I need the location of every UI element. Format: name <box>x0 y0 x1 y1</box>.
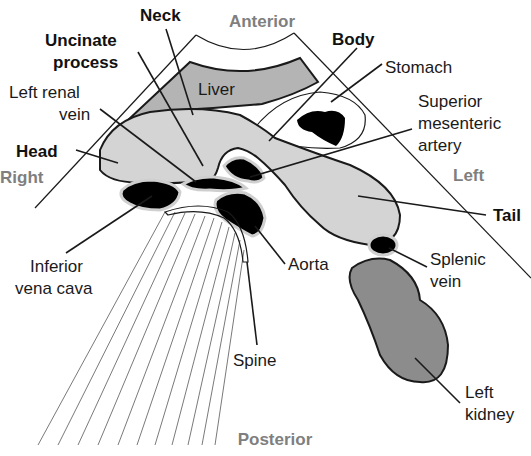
left-label: Left <box>453 166 485 185</box>
splenic-vein <box>369 235 397 255</box>
left-renal-vein-label-1: Left renal <box>9 83 80 102</box>
spine-acoustic-shadow <box>38 212 244 445</box>
tail-label: Tail <box>493 206 521 225</box>
body-label: Body <box>332 30 375 49</box>
neck-label: Neck <box>140 6 181 25</box>
sma-label-1: Superior <box>418 92 483 111</box>
left-kidney-label-1: Left <box>465 383 494 402</box>
liver-label: Liver <box>198 80 235 99</box>
right-label: Right <box>0 168 44 187</box>
left-renal-vein-label-2: vein <box>59 105 90 124</box>
sma-label-2: mesenteric <box>418 114 502 133</box>
sma-label-3: artery <box>418 136 462 155</box>
ivc-label-2: vena cava <box>15 279 93 298</box>
spine-label: Spine <box>233 351 276 370</box>
inferior-vena-cava <box>121 180 180 210</box>
uncinate-label-1: Uncinate <box>45 31 117 50</box>
stomach-label: Stomach <box>385 58 452 77</box>
anterior-label: Anterior <box>229 12 296 31</box>
aorta-label: Aorta <box>288 255 329 274</box>
left-kidney-label-2: kidney <box>465 405 515 424</box>
ivc-label-1: Inferior <box>30 257 83 276</box>
splenic-vein-label-2: vein <box>430 272 461 291</box>
splenic-vein-label-1: Splenic <box>430 250 486 269</box>
transducer-arc <box>196 33 294 50</box>
posterior-label: Posterior <box>238 430 313 449</box>
pancreas-anatomy-diagram: Anterior Right Left Posterior Neck Uncin… <box>0 0 531 456</box>
head-label: Head <box>16 142 58 161</box>
uncinate-label-2: process <box>53 53 118 72</box>
